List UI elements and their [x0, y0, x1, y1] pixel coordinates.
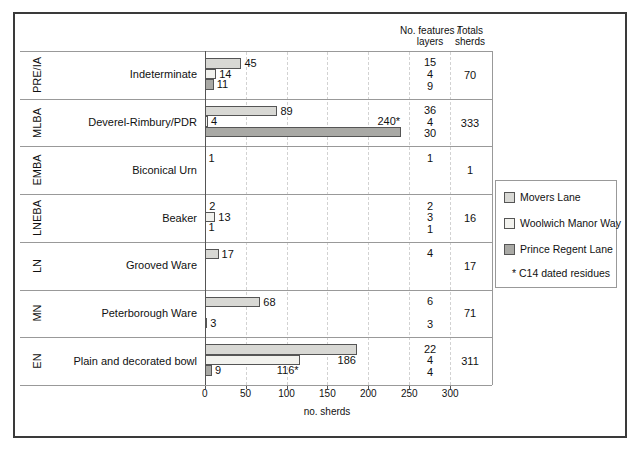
legend-label: Prince Regent Lane [520, 243, 613, 255]
bar [205, 318, 208, 329]
features-line: 9 [401, 81, 459, 93]
legend-footnote: * C14 dated residues [512, 267, 610, 279]
bar-value-label: 11 [217, 79, 228, 90]
legend: Movers LaneWoolwich Manor WayPrince Rege… [495, 180, 617, 288]
figure-page: No. features / layers Totals sherds 0501… [0, 0, 641, 453]
x-tick-label: 300 [435, 388, 465, 399]
totals-cell: 17 [442, 260, 498, 272]
column-header-totals-line1: Totals [442, 25, 498, 36]
category-label: Deverel-Rimbury/PDR [40, 116, 197, 128]
row-divider [20, 146, 492, 147]
x-tick-label: 150 [312, 388, 342, 399]
row-divider [20, 337, 492, 338]
bar-value-label: 3 [210, 318, 216, 329]
bar-value-label: 89 [281, 106, 293, 117]
bar-value-label: 4 [211, 116, 217, 127]
bar-value-label: 186 [312, 355, 356, 366]
x-tick-label: 100 [272, 388, 302, 399]
bar-value-label: 17 [222, 249, 234, 260]
bar-value-label: 116* [255, 365, 299, 376]
bar-value-label: 68 [263, 297, 275, 308]
bar [205, 116, 208, 127]
bar [205, 79, 214, 90]
totals-cell: 1 [442, 164, 498, 176]
bar-value-label: 240* [356, 116, 400, 127]
bar [205, 69, 217, 80]
features-line: 4 [401, 248, 459, 260]
bar-value-label: 1 [209, 222, 215, 233]
totals-cell: 311 [442, 355, 498, 367]
legend-swatch [504, 192, 515, 203]
bar-value-label: 9 [215, 365, 221, 376]
bar-value-label: 1 [209, 153, 215, 164]
legend-swatch [504, 244, 515, 255]
category-label: Biconical Urn [40, 164, 197, 176]
bar [205, 249, 219, 260]
x-axis-baseline [20, 385, 492, 386]
totals-cell: 16 [442, 212, 498, 224]
row-divider [20, 242, 492, 243]
bar [205, 344, 357, 355]
category-label: Indeterminate [40, 68, 197, 80]
features-line: 1 [401, 224, 459, 236]
row-divider [20, 99, 492, 100]
bar [205, 127, 401, 138]
bar [205, 365, 212, 376]
bar-value-label: 2 [209, 201, 215, 212]
totals-cell: 333 [442, 117, 498, 129]
legend-label: Woolwich Manor Way [520, 217, 621, 229]
x-tick-label: 50 [231, 388, 261, 399]
features-line: 4 [401, 367, 459, 379]
gridline [327, 52, 328, 385]
totals-cell: 71 [442, 307, 498, 319]
column-header-totals-line2: sherds [442, 36, 498, 47]
x-tick-label: 250 [394, 388, 424, 399]
bar [205, 58, 242, 69]
gridline [287, 52, 288, 385]
features-line: 1 [401, 153, 459, 165]
features-line [401, 176, 459, 188]
totals-cell: 70 [442, 69, 498, 81]
category-label: Beaker [40, 212, 197, 224]
column-header-totals: Totals sherds [442, 25, 498, 47]
legend-swatch [504, 218, 515, 229]
features-line [401, 272, 459, 284]
bar [205, 297, 261, 308]
row-divider [20, 194, 492, 195]
category-label: Plain and decorated bowl [40, 355, 197, 367]
category-label: Grooved Ware [40, 259, 197, 271]
x-axis-title: no. sherds [267, 406, 387, 417]
category-label: Peterborough Ware [40, 307, 197, 319]
gridline [246, 52, 247, 385]
row-divider [20, 51, 492, 52]
bar-value-label: 13 [218, 212, 230, 223]
features-line: 3 [401, 319, 459, 331]
bar-value-label: 45 [245, 58, 257, 69]
x-tick-label: 0 [190, 388, 220, 399]
features-line: 6 [401, 296, 459, 308]
row-divider [20, 290, 492, 291]
x-tick-label: 200 [353, 388, 383, 399]
features-line: 30 [401, 128, 459, 140]
gridline [368, 52, 369, 385]
legend-label: Movers Lane [520, 191, 581, 203]
